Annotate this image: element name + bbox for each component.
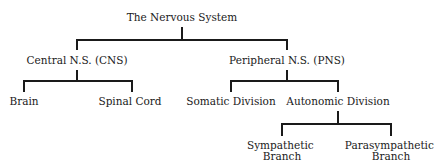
- parasympathetic-line2: Branch: [372, 150, 411, 162]
- connector-pns: [230, 70, 339, 92]
- node-autonomic-division: Autonomic Division: [285, 95, 390, 107]
- node-spinal-cord: Spinal Cord: [98, 95, 161, 107]
- node-sympathetic-branch: Sympathetic Branch: [247, 139, 317, 162]
- nervous-system-tree-diagram: The Nervous System Central N.S. (CNS) Pe…: [0, 0, 440, 168]
- node-cns: Central N.S. (CNS): [26, 54, 127, 66]
- node-parasympathetic-branch: Parasympathetic Branch: [345, 139, 437, 162]
- node-brain: Brain: [9, 95, 38, 107]
- sympathetic-line2: Branch: [263, 150, 302, 162]
- node-pns: Peripheral N.S. (PNS): [229, 54, 345, 66]
- connector-autonomic: [281, 111, 392, 136]
- node-root: The Nervous System: [127, 11, 237, 23]
- node-somatic-division: Somatic Division: [186, 95, 276, 107]
- connector-root: [76, 27, 288, 50]
- connector-cns: [23, 70, 133, 92]
